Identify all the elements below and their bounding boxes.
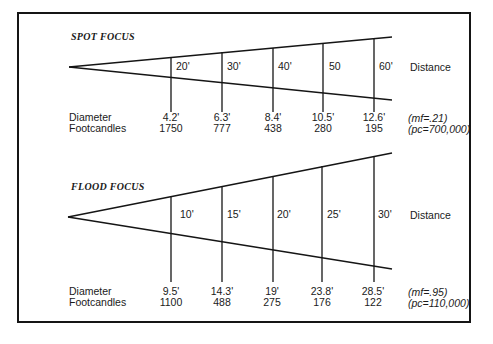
spot-focus-title: SPOT FOCUS	[71, 31, 135, 43]
spot-footcandles-label: Footcandles	[69, 122, 126, 134]
flood-distance-4: 25'	[327, 208, 341, 220]
flood-footcandles-1: 1100	[151, 296, 191, 308]
flood-footcandles-5: 122	[353, 296, 393, 308]
spot-distance-2: 30'	[227, 60, 241, 72]
flood-distance-2: 15'	[227, 208, 241, 220]
flood-pc: (pc=110,000)	[408, 297, 469, 309]
spot-footcandles-1: 1750	[151, 122, 191, 134]
flood-focus-title: FLOOD FOCUS	[71, 181, 145, 193]
flood-distance-3: 20'	[277, 208, 291, 220]
spot-footcandles-5: 195	[354, 122, 394, 134]
spot-pc: (pc=700,000)	[408, 123, 470, 135]
spot-distance-5: 60'	[379, 60, 393, 72]
flood-footcandles-4: 176	[302, 296, 342, 308]
spot-distance-3: 40'	[278, 60, 292, 72]
spot-footcandles-2: 777	[202, 122, 242, 134]
flood-distance-label: Distance	[410, 209, 451, 221]
flood-footcandles-3: 275	[252, 296, 292, 308]
flood-distance-1: 10'	[180, 208, 194, 220]
spot-distance-1: 20'	[176, 60, 190, 72]
spot-footcandles-3: 438	[253, 122, 293, 134]
flood-distance-5: 30'	[378, 208, 392, 220]
spot-footcandles-4: 280	[303, 122, 343, 134]
flood-footcandles-2: 488	[202, 296, 242, 308]
flood-footcandles-label: Footcandles	[69, 296, 126, 308]
spot-distance-label: Distance	[410, 61, 451, 73]
spot-distance-4: 50	[329, 60, 341, 72]
